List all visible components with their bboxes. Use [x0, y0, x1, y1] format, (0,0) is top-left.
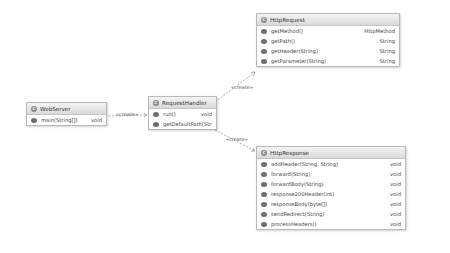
- method-row[interactable]: main(String[]) void: [27, 115, 106, 125]
- method-name: response200Header(int): [271, 191, 386, 197]
- class-name: WebServer: [40, 106, 71, 112]
- return-type: void: [390, 211, 401, 217]
- return-type: void: [390, 221, 401, 227]
- method-row[interactable]: response200Header(int) void: [257, 189, 405, 199]
- method-name: sendRedirect(String): [271, 211, 386, 217]
- class-icon: C: [261, 17, 267, 23]
- class-icon: C: [261, 150, 267, 156]
- class-header: C HttpRequest: [257, 14, 399, 26]
- method-row[interactable]: addHeader(String, String) void: [257, 159, 405, 169]
- method-name: responseBody(byte[]): [271, 201, 386, 207]
- public-method-icon: [261, 222, 267, 227]
- public-method-icon: [261, 59, 267, 64]
- method-row[interactable]: run() void: [149, 109, 216, 119]
- method-row[interactable]: getParameter(String) String: [257, 56, 399, 66]
- class-webserver[interactable]: C WebServer main(String[]) void: [26, 102, 107, 126]
- method-name: main(String[]): [41, 117, 87, 123]
- return-type: HttpMethod: [364, 28, 395, 34]
- return-type: void: [390, 171, 401, 177]
- public-method-icon: [261, 172, 267, 177]
- return-type: void: [390, 161, 401, 167]
- public-method-icon: [261, 192, 267, 197]
- class-name: RequestHandler: [162, 100, 207, 106]
- class-icon: C: [153, 100, 159, 106]
- method-row[interactable]: getPath() String: [257, 36, 399, 46]
- edge-label-create: «create»: [231, 84, 253, 90]
- class-httpresponse[interactable]: C HttpResponse addHeader(String, String)…: [256, 146, 406, 230]
- method-row[interactable]: getDefaultPath(Str: [149, 119, 216, 129]
- return-type: void: [390, 201, 401, 207]
- method-name: run(): [163, 111, 197, 117]
- class-requesthandler[interactable]: C RequestHandler run() void getDefaultPa…: [148, 96, 217, 130]
- method-name: getMethod(): [271, 28, 360, 34]
- class-icon: C: [31, 106, 37, 112]
- public-method-icon: [261, 182, 267, 187]
- public-method-icon: [261, 39, 267, 44]
- method-name: addHeader(String, String): [271, 161, 386, 167]
- class-httprequest[interactable]: C HttpRequest getMethod() HttpMethod get…: [256, 13, 400, 67]
- method-name: getDefaultPath(Str: [163, 121, 212, 127]
- class-name: HttpResponse: [270, 150, 309, 156]
- method-name: forwardBody(String): [271, 181, 386, 187]
- public-method-icon: [261, 29, 267, 34]
- public-method-icon: [261, 212, 267, 217]
- edge-label-create: «create»: [226, 136, 248, 142]
- public-method-icon: [261, 49, 267, 54]
- return-type: void: [201, 111, 212, 117]
- method-row[interactable]: processHeaders() void: [257, 219, 405, 229]
- method-name: getParameter(String): [271, 58, 376, 64]
- return-type: void: [390, 191, 401, 197]
- method-name: processHeaders(): [271, 221, 386, 227]
- method-row[interactable]: responseBody(byte[]) void: [257, 199, 405, 209]
- return-type: void: [390, 181, 401, 187]
- public-method-icon: [31, 118, 37, 123]
- class-name: HttpRequest: [270, 17, 305, 23]
- return-type: void: [91, 117, 102, 123]
- class-header: C WebServer: [27, 103, 106, 115]
- return-type: String: [380, 38, 395, 44]
- method-row[interactable]: getMethod() HttpMethod: [257, 26, 399, 36]
- public-method-icon: [261, 162, 267, 167]
- method-row[interactable]: forwardBody(String) void: [257, 179, 405, 189]
- method-row[interactable]: getHeader(String) String: [257, 46, 399, 56]
- class-header: C HttpResponse: [257, 147, 405, 159]
- public-method-icon: [153, 112, 159, 117]
- class-header: C RequestHandler: [149, 97, 216, 109]
- method-name: getPath(): [271, 38, 376, 44]
- method-row[interactable]: sendRedirect(String) void: [257, 209, 405, 219]
- edge-label-create: «create»: [116, 111, 138, 117]
- return-type: String: [380, 58, 395, 64]
- method-name: forward(String): [271, 171, 386, 177]
- method-name: getHeader(String): [271, 48, 376, 54]
- public-method-icon: [153, 122, 159, 127]
- return-type: String: [380, 48, 395, 54]
- public-method-icon: [261, 202, 267, 207]
- method-row[interactable]: forward(String) void: [257, 169, 405, 179]
